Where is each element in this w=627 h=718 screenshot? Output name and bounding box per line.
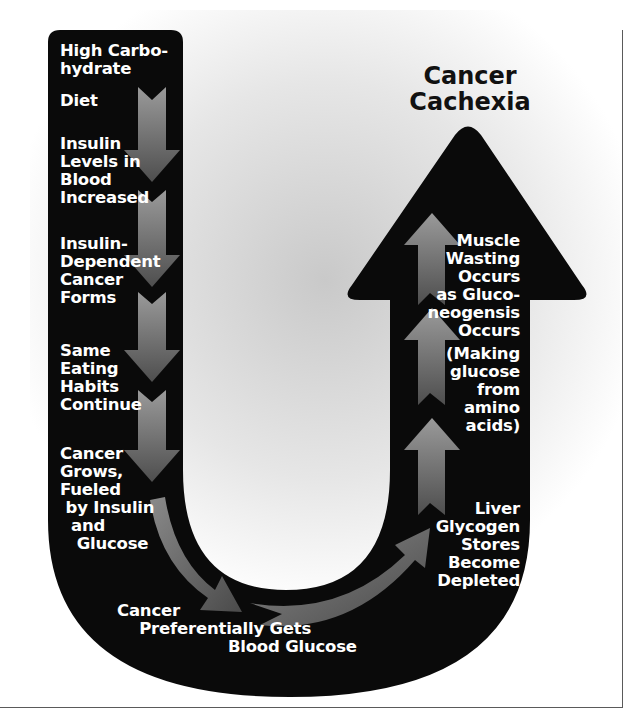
step-label-insulin-levels: Insulin Levels in Blood Increased [60, 135, 149, 207]
step-label-same-eating-habits: Same Eating Habits Continue [60, 342, 142, 414]
step-label-muscle-wasting: Muscle Wasting Occurs as Gluco- neogensi… [400, 232, 520, 340]
step-label-making-glucose: (Making glucose from amino acids) [400, 345, 520, 435]
frame-right-border [622, 30, 623, 708]
outcome-title: Cancer Cachexia [400, 63, 540, 115]
step-label-insulin-dependent-cancer: Insulin- Dependent Cancer Forms [60, 235, 160, 307]
step-label-preferentially-gets-glucose: Cancer Preferentially Gets Blood Glucose [117, 602, 357, 656]
step-label-high-carb: High Carbo- hydrate [60, 42, 168, 78]
step-label-diet: Diet [60, 92, 98, 110]
frame-bottom-border [0, 707, 623, 708]
step-label-cancer-grows: Cancer Grows, Fueled by Insulin and Gluc… [60, 445, 154, 553]
diagram-frame: Cancer Cachexia High Carbo- hydrate Diet… [0, 0, 627, 718]
step-label-liver-glycogen: Liver Glycogen Stores Become Depleted [400, 500, 520, 590]
